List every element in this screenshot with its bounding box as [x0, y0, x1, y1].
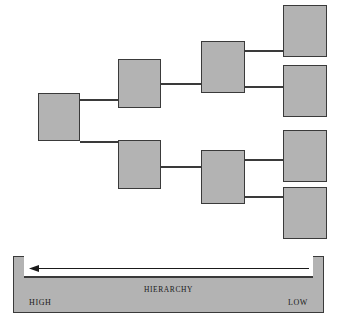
edge-root-to-l2-dn	[80, 141, 118, 143]
edge-l2-up-to-l3-up	[161, 83, 201, 85]
edge-l3-up-to-leaf-2	[245, 86, 283, 88]
node-level2-upper[interactable]	[118, 59, 161, 108]
node-level2-lower[interactable]	[118, 140, 161, 189]
hierarchy-direction-arrow	[28, 264, 311, 273]
edge-root-to-l2-up	[80, 99, 118, 101]
edge-l2-dn-to-l3-dn	[161, 166, 201, 168]
hierarchy-scale: HIERARCHY HIGH LOW	[13, 256, 324, 313]
hierarchy-diagram: HIERARCHY HIGH LOW	[0, 0, 337, 331]
node-leaf-1[interactable]	[283, 5, 327, 57]
trough-base	[13, 277, 324, 313]
node-level3-lower[interactable]	[201, 150, 245, 204]
node-leaf-2[interactable]	[283, 65, 327, 117]
hierarchy-axis-label: HIERARCHY	[13, 285, 324, 294]
hierarchy-low-label: LOW	[288, 298, 308, 307]
edge-l3-up-to-leaf-1	[245, 50, 283, 52]
node-root[interactable]	[38, 93, 80, 141]
edge-l3-dn-to-leaf-4	[245, 196, 283, 198]
edge-l3-dn-to-leaf-3	[245, 159, 283, 161]
node-leaf-3[interactable]	[283, 130, 327, 182]
hierarchy-high-label: HIGH	[29, 298, 51, 307]
node-level3-upper[interactable]	[201, 41, 245, 93]
node-leaf-4[interactable]	[283, 187, 327, 239]
